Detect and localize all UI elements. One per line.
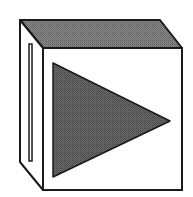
cube-side-slot <box>29 44 32 161</box>
play-cube-icon <box>0 0 193 197</box>
play-cube-svg <box>0 0 193 197</box>
cube-top-face <box>20 20 182 48</box>
